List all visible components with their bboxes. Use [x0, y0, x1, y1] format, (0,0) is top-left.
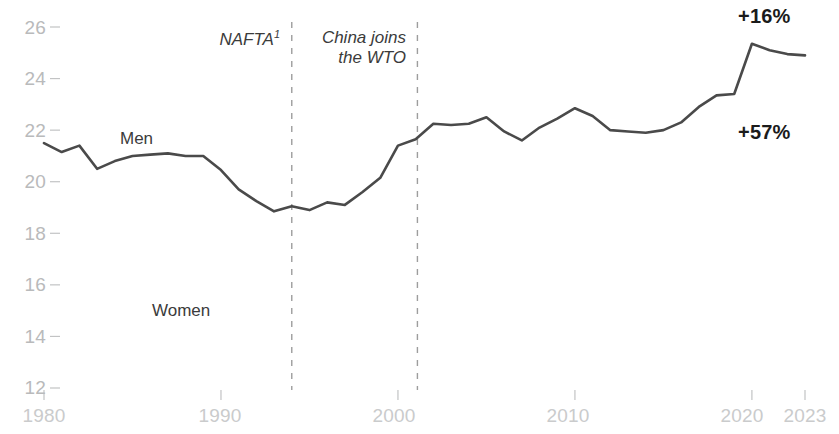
china-wto-line2: the WTO	[284, 48, 406, 68]
x-tick-label: 2000	[364, 406, 424, 425]
nafta-annotation: NAFTA1	[150, 28, 280, 50]
x-tick-label: 2020	[712, 406, 772, 425]
y-tick-label: 26	[6, 18, 46, 37]
nafta-annotation-text: NAFTA	[219, 30, 273, 49]
y-tick-label: 18	[6, 224, 46, 243]
chart-container: 26 24 22 20 18 16 14 12 1980 1990 2000 2…	[0, 0, 839, 434]
men-change-label: +16%	[738, 6, 791, 26]
y-tick-label: 20	[6, 172, 46, 191]
y-tick-label: 16	[6, 275, 46, 294]
china-wto-annotation: China joins the WTO	[284, 28, 406, 68]
y-tick-label: 22	[6, 121, 46, 140]
y-tick-label: 12	[6, 378, 46, 397]
y-tick-label: 14	[6, 327, 46, 346]
x-axis-tick-marks	[44, 390, 805, 400]
women-series-label: Women	[152, 302, 210, 319]
y-axis-tick-marks	[50, 27, 60, 388]
women-change-label: +57%	[738, 122, 791, 142]
x-tick-label: 1980	[14, 406, 74, 425]
y-tick-label: 24	[6, 69, 46, 88]
x-tick-label: 2023	[775, 406, 835, 425]
men-series-label: Men	[120, 130, 153, 147]
x-tick-label: 1990	[190, 406, 250, 425]
china-wto-line1: China joins	[284, 28, 406, 48]
nafta-footnote-marker: 1	[274, 28, 280, 40]
chart-plot-area	[0, 0, 839, 434]
men-series-line	[44, 44, 805, 212]
x-tick-label: 2010	[538, 406, 598, 425]
event-marker-lines	[292, 22, 418, 390]
